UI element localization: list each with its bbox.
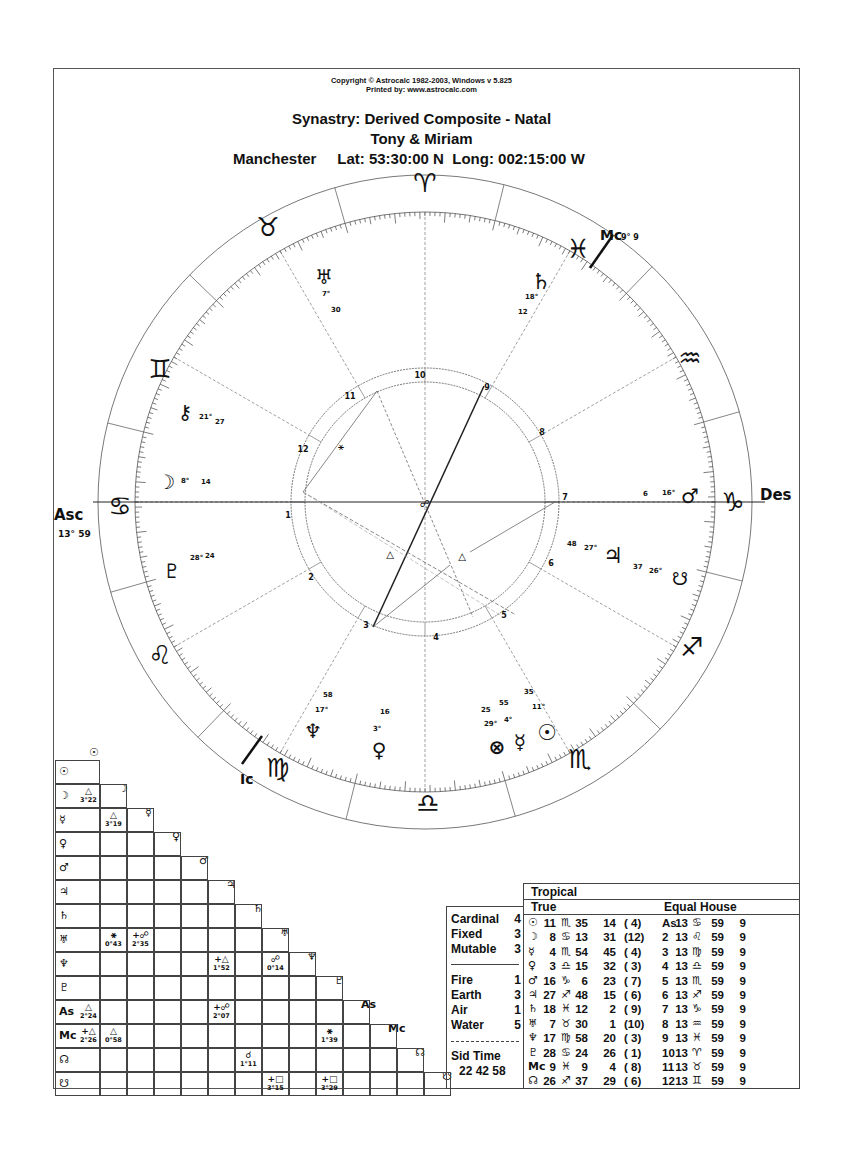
position-row: ☊26♐3729( 6)1213♊599: [524, 1074, 799, 1088]
aspect-orb: 0°58: [100, 1037, 127, 1044]
svg-text:6: 6: [643, 490, 648, 498]
position-csign: ♈: [692, 1046, 702, 1060]
aspect-grid-cell: [100, 952, 127, 976]
position-csec: 9: [730, 916, 746, 930]
svg-text:29°: 29°: [484, 720, 497, 728]
aspect-grid-cell: [370, 1048, 397, 1072]
qualities-panel: Cardinal4 Fixed3 Mutable3 Fire1 Earth3 A…: [446, 906, 524, 1089]
aspect-grid-cell: [397, 1048, 424, 1072]
position-deg: 16: [540, 974, 556, 988]
aspect-grid-cell: [127, 976, 154, 1000]
position-house: ( 6): [624, 1074, 641, 1088]
aspect-grid-cell: [316, 976, 343, 1000]
svg-text:4°: 4°: [504, 716, 512, 724]
mercury-icon: ☿: [514, 730, 526, 754]
position-row: ♂16♑623( 7)513♏599: [524, 974, 799, 988]
pisces-sign-icon: ♓: [566, 234, 589, 264]
position-cmin: 59: [708, 1060, 724, 1074]
position-cmin: 59: [708, 916, 724, 930]
house-number-1: 1: [285, 511, 291, 520]
aspect-grid-cell: [127, 952, 154, 976]
position-cdeg: 13: [672, 1031, 688, 1045]
position-house: ( 6): [624, 988, 641, 1002]
aspect-grid-cell: [154, 1048, 181, 1072]
aspect-grid-cell: [235, 904, 262, 928]
position-planet: ☽: [528, 930, 538, 944]
aspect-grid-cell: [181, 904, 208, 928]
gemini-sign-icon: ♊: [148, 354, 171, 384]
aspect-orb: 3°19: [100, 821, 127, 828]
element-fire: Fire1: [451, 973, 521, 987]
position-csec: 9: [730, 1017, 746, 1031]
asc-label: Asc: [54, 506, 83, 524]
aspect-orb: 1°39: [316, 1037, 343, 1044]
aspect-grid-cell: [235, 1024, 262, 1048]
position-cmin: 59: [708, 959, 724, 973]
ic-label: Ic: [240, 771, 254, 787]
position-cmin: 59: [708, 945, 724, 959]
aries-sign-icon: ♈: [413, 168, 436, 198]
position-sign: ♏: [561, 945, 571, 959]
jupiter-icon: ♃: [603, 543, 623, 568]
position-csign: ♉: [692, 1060, 702, 1074]
planet-sun: ☉ 11° 35: [524, 688, 557, 745]
position-cmin: 59: [708, 988, 724, 1002]
position-deg: 4: [540, 945, 556, 959]
planet-pluto: ♇ 28° 24: [163, 552, 215, 583]
aspect-grid-cell: [343, 1048, 370, 1072]
aspect-cell-content: △3°19: [100, 809, 127, 828]
position-min: 35: [572, 916, 588, 930]
position-min: 24: [572, 1046, 588, 1060]
mc-label: Mc: [600, 227, 622, 243]
svg-text:7°: 7°: [322, 290, 330, 298]
position-sec: 4: [600, 1060, 616, 1074]
aspect-grid-row-label: ☉: [55, 760, 100, 784]
position-planet: ♀: [528, 959, 536, 973]
moon-icon: ☽: [157, 470, 175, 494]
aspect-grid-cell: [100, 1072, 127, 1096]
leo-sign-icon: ♌: [148, 640, 171, 670]
aspect-grid-row-label: ♄: [55, 904, 100, 928]
planet-jupiter: ♃ 27° 48: [567, 540, 623, 568]
position-sec: 14: [600, 916, 616, 930]
position-planet: ♇: [528, 1046, 538, 1060]
aspect-grid-cell: [181, 1072, 208, 1096]
node-type: True: [531, 900, 556, 915]
position-csign: ♑: [692, 1002, 702, 1016]
house-cusp-line: [174, 357, 309, 435]
aspect-grid-row-label: ♀: [55, 832, 100, 856]
position-cmin: 59: [708, 1046, 724, 1060]
scorpio-sign-icon: ♏: [568, 744, 591, 774]
house-number-11: 11: [344, 392, 356, 401]
position-cmin: 59: [708, 1002, 724, 1016]
house-number-3: 3: [363, 621, 369, 630]
position-min: 58: [572, 1031, 588, 1045]
position-cusp: 7: [662, 1002, 668, 1016]
aspect-grid-cell: [370, 1072, 397, 1096]
position-sign: ♑: [561, 974, 571, 988]
svg-text:24: 24: [205, 552, 215, 560]
aspect-grid-cell: [181, 1000, 208, 1024]
position-sec: 20: [600, 1031, 616, 1045]
position-cdeg: 13: [672, 916, 688, 930]
aspect-cell-content: +□3°29: [316, 1073, 343, 1092]
svg-text:28°: 28°: [190, 554, 203, 562]
position-sec: 2: [600, 1002, 616, 1016]
svg-text:11°: 11°: [532, 703, 545, 711]
sextile-aspect-icon: ⚹: [338, 441, 344, 452]
svg-text:18°: 18°: [525, 293, 538, 301]
aspect-grid-row-label: ☿: [55, 808, 100, 832]
position-csec: 9: [730, 988, 746, 1002]
aspect-grid-cell: [343, 1000, 370, 1024]
svg-text:16: 16: [380, 708, 390, 716]
position-csign: ♍: [692, 945, 702, 959]
aspect-cell-content: ⚹1°39: [316, 1025, 343, 1044]
aspect-grid-cell: [262, 976, 289, 1000]
position-deg: 26: [540, 1074, 556, 1088]
capricorn-sign-icon: ♑: [721, 487, 744, 517]
position-cdeg: 13: [672, 1002, 688, 1016]
aspect-orb: 1°52: [208, 965, 235, 972]
position-house: ( 9): [624, 1002, 641, 1016]
position-csec: 9: [730, 930, 746, 944]
aspect-cell-content: +□3°15: [262, 1073, 289, 1092]
